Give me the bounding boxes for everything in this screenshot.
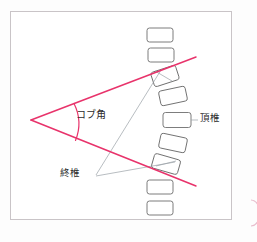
label-end-vertebra: 終椎 bbox=[60, 168, 80, 178]
figure-canvas: コブ角 頂椎 終椎 bbox=[0, 0, 257, 242]
figure-frame bbox=[10, 11, 232, 220]
edge-crop-mark bbox=[251, 200, 257, 226]
label-apical-vertebra: 頂椎 bbox=[200, 113, 220, 123]
label-cobb-angle: コブ角 bbox=[76, 110, 107, 120]
